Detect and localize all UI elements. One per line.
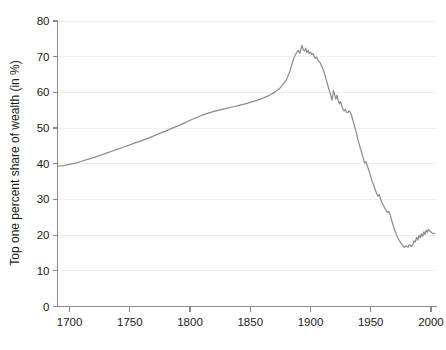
y-tick-label: 60 bbox=[37, 86, 50, 98]
x-tick-label: 2000 bbox=[418, 316, 444, 328]
x-tick-label: 1950 bbox=[358, 316, 384, 328]
chart-plot-area: 01020304050607080 1700175018001850190019… bbox=[0, 0, 446, 350]
y-tick-label: 80 bbox=[37, 15, 50, 27]
y-axis-title: Top one percent share of wealth (in %) bbox=[8, 60, 22, 265]
y-tick-label: 20 bbox=[37, 229, 50, 241]
y-tick-label: 10 bbox=[37, 265, 50, 277]
y-tick-label: 50 bbox=[37, 122, 50, 134]
y-tick-label: 70 bbox=[37, 51, 50, 63]
x-tick-label: 1750 bbox=[117, 316, 143, 328]
x-tick-label: 1850 bbox=[237, 316, 263, 328]
gridlines bbox=[58, 21, 438, 271]
y-tick-label: 0 bbox=[43, 301, 49, 313]
series-line bbox=[58, 45, 435, 247]
x-axis-ticks: 1700175018001850190019502000 bbox=[57, 307, 444, 328]
y-tick-label: 30 bbox=[37, 193, 50, 205]
x-tick-label: 1800 bbox=[177, 316, 203, 328]
y-tick-label: 40 bbox=[37, 158, 50, 170]
chart-figure: 01020304050607080 1700175018001850190019… bbox=[0, 0, 446, 350]
y-axis-ticks: 01020304050607080 bbox=[37, 15, 58, 313]
x-tick-label: 1700 bbox=[57, 316, 83, 328]
data-series bbox=[58, 45, 435, 247]
x-tick-label: 1900 bbox=[298, 316, 324, 328]
